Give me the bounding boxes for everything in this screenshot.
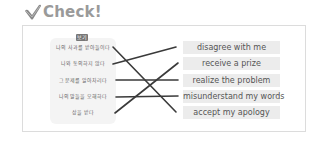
left-item-2[interactable]: 나와 동의하지 않다 [50, 58, 116, 68]
right-item-4[interactable]: misunderstand my words [183, 90, 280, 103]
left-item-4[interactable]: 나의 말들을 오해하다 [50, 91, 116, 101]
section-header: Check! [24, 2, 102, 22]
right-item-5[interactable]: accept my apology [183, 106, 280, 119]
header-title: Check! [43, 3, 102, 21]
example-badge: 보기 [76, 34, 88, 41]
left-item-5[interactable]: 상을 받다 [50, 107, 116, 117]
left-item-3[interactable]: 그 문제를 알아차리다 [50, 75, 116, 85]
check-icon [24, 4, 42, 20]
right-item-1[interactable]: disagree with me [183, 41, 280, 54]
right-item-3[interactable]: realize the problem [183, 74, 280, 87]
right-item-2[interactable]: receive a prize [183, 57, 280, 70]
left-item-1[interactable]: 나의 사과를 받아들이다 [50, 42, 116, 52]
